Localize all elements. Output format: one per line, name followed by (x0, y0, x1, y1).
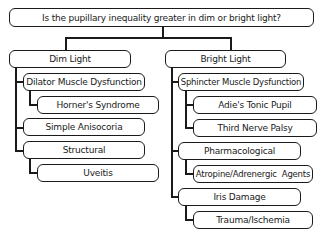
pharmacological-node: Pharmacological (178, 142, 301, 160)
connector (185, 173, 193, 175)
node-label: Adie's Tonic Pupil (218, 100, 291, 110)
adies-tonic-pupil-node: Adie's Tonic Pupil (193, 96, 317, 114)
horners-syndrome-node: Horner's Syndrome (37, 96, 159, 114)
node-label: Dim Light (49, 54, 91, 64)
connector (185, 206, 187, 220)
connector (15, 127, 23, 129)
atropine-adrenergic-agents-node: Atropine/Adrenergic Agents (193, 165, 313, 183)
uveitis-node: Uveitis (37, 164, 159, 182)
connector (29, 104, 37, 106)
bright-light-node: Bright Light (165, 50, 286, 68)
dilator-muscle-dysfunction-node: Dilator Muscle Dysfunction (23, 73, 145, 91)
node-label: Sphincter Muscle Dysfunction (181, 77, 302, 87)
connector (185, 160, 187, 174)
connector (15, 81, 23, 83)
connector (29, 91, 31, 105)
iris-damage-node: Iris Damage (178, 188, 301, 206)
connector (230, 37, 232, 50)
connector (29, 159, 31, 173)
simple-anisocoria-node: Simple Anisocoria (23, 118, 145, 136)
connector (65, 37, 231, 39)
connector (185, 127, 193, 129)
node-label: Trauma/Ischemia (216, 215, 290, 225)
connector (185, 219, 193, 221)
connector (185, 104, 193, 106)
sphincter-muscle-dysfunction-node: Sphincter Muscle Dysfunction (178, 73, 304, 91)
node-label: Bright Light (200, 54, 250, 64)
structural-node: Structural (23, 141, 145, 159)
third-nerve-palsy-node: Third Nerve Palsy (193, 119, 317, 137)
node-label: Atropine/Adrenergic Agents (196, 169, 310, 179)
connector (15, 150, 23, 152)
node-label: Third Nerve Palsy (217, 123, 292, 133)
node-label: Simple Anisocoria (46, 122, 123, 132)
node-label: Is the pupillary inequality greater in d… (42, 13, 281, 23)
node-label: Iris Damage (213, 192, 265, 202)
node-label: Dilator Muscle Dysfunction (26, 77, 142, 87)
root-question-node: Is the pupillary inequality greater in d… (9, 8, 314, 27)
trauma-ischemia-node: Trauma/Ischemia (193, 211, 313, 229)
node-label: Structural (63, 145, 106, 155)
connector (65, 37, 67, 50)
node-label: Pharmacological (204, 146, 275, 156)
connector (185, 91, 187, 128)
node-label: Uveitis (83, 168, 112, 178)
dim-light-node: Dim Light (9, 50, 131, 68)
node-label: Horner's Syndrome (56, 100, 139, 110)
connector (171, 68, 173, 197)
connector (29, 172, 37, 174)
